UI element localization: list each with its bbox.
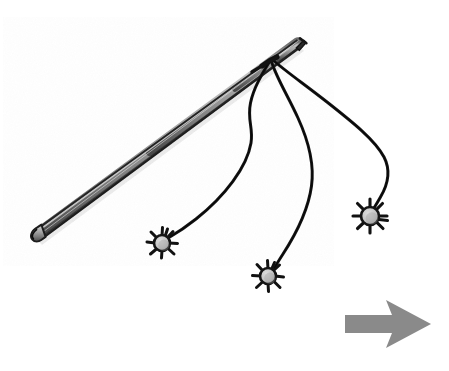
ball-left-shadow	[158, 240, 169, 251]
ball-left	[147, 228, 178, 259]
strings-group	[169, 57, 388, 268]
string-left	[169, 62, 270, 238]
rod-shadow	[38, 47, 304, 245]
string-right	[274, 61, 388, 209]
scene-svg	[0, 0, 449, 371]
illustration-canvas: Hand-drawn rod with three tethered spike…	[0, 0, 449, 371]
ball-middle	[253, 261, 284, 292]
ball-right	[353, 199, 388, 233]
ball-right-shadow	[366, 212, 378, 224]
string-middle	[272, 62, 313, 269]
direction-arrow	[345, 300, 431, 348]
ball-middle-shadow	[264, 273, 275, 284]
